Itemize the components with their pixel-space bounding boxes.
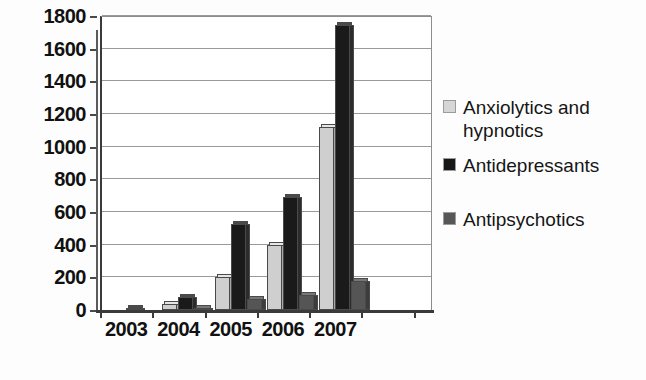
bar-2005-anxiolytics-and-hypnotics[interactable] bbox=[215, 277, 230, 310]
x-tick-mark-0 bbox=[100, 310, 102, 318]
bar-face bbox=[283, 197, 298, 310]
y-tick-label-1600: 1600 bbox=[44, 37, 87, 60]
x-tick-mark-3 bbox=[257, 310, 259, 318]
bar-face bbox=[231, 224, 246, 310]
legend-entry-antipsychotics[interactable]: Antipsychotics bbox=[443, 208, 584, 231]
plot-wrapper bbox=[100, 16, 432, 310]
y-axis-line bbox=[96, 30, 98, 312]
bar-face bbox=[178, 297, 193, 310]
x-tick-label-2005: 2005 bbox=[209, 318, 252, 341]
x-tick-mark-5 bbox=[361, 310, 363, 318]
x-tick-mark-1 bbox=[152, 310, 154, 318]
y-tick-label-1400: 1400 bbox=[44, 70, 87, 93]
x-tick-mark-2 bbox=[205, 310, 207, 318]
bar-2006-antipsychotics[interactable] bbox=[299, 295, 314, 310]
y-tick-label-800: 800 bbox=[54, 168, 86, 191]
bar-group-2007 bbox=[319, 17, 367, 310]
x-tick-label-2004: 2004 bbox=[157, 318, 200, 341]
legend-label: Anxiolytics and hypnotics bbox=[463, 96, 638, 142]
y-tick-label-1000: 1000 bbox=[44, 135, 87, 158]
x-tick-label-2007: 2007 bbox=[314, 318, 357, 341]
bar-side-face bbox=[350, 25, 354, 310]
bar-face bbox=[335, 25, 350, 310]
bar-face bbox=[319, 127, 334, 310]
bar-2007-anxiolytics-and-hypnotics[interactable] bbox=[319, 127, 334, 310]
bar-2005-antipsychotics[interactable] bbox=[247, 299, 262, 310]
x-tick-mark-6 bbox=[414, 310, 416, 318]
bar-group-2004 bbox=[162, 17, 210, 310]
legend-entry-anxiolytics-and-hypnotics[interactable]: Anxiolytics and hypnotics bbox=[443, 96, 638, 142]
gridline-1800 bbox=[102, 15, 431, 16]
y-tick-label-400: 400 bbox=[54, 233, 86, 256]
light-gray-swatch bbox=[443, 100, 456, 113]
bar-chart-figure: 020040060080010001200140016001800 200320… bbox=[0, 0, 646, 380]
bar-face bbox=[247, 299, 262, 310]
bar-2007-antidepressants[interactable] bbox=[335, 25, 350, 310]
bar-side-face bbox=[262, 299, 266, 310]
y-tick-label-0: 0 bbox=[75, 299, 86, 322]
dark-gray-swatch bbox=[443, 212, 456, 225]
bar-2005-antidepressants[interactable] bbox=[231, 224, 246, 310]
bar-2006-anxiolytics-and-hypnotics[interactable] bbox=[267, 245, 282, 310]
x-tick-label-2006: 2006 bbox=[262, 318, 305, 341]
bar-side-face bbox=[366, 281, 370, 310]
legend-entry-antidepressants[interactable]: Antidepressants bbox=[443, 154, 599, 177]
bar-face bbox=[299, 295, 314, 310]
y-tick-label-200: 200 bbox=[54, 266, 86, 289]
y-tick-label-600: 600 bbox=[54, 201, 86, 224]
x-tick-label-2003: 2003 bbox=[105, 318, 148, 341]
bar-side-face bbox=[314, 295, 318, 310]
y-tick-mark-1800 bbox=[90, 16, 97, 18]
x-axis-labels: 20032004200520062007 bbox=[92, 318, 442, 348]
bar-group-2005 bbox=[215, 17, 263, 310]
plot-area bbox=[100, 16, 432, 310]
legend-label: Antipsychotics bbox=[463, 208, 584, 231]
bar-groups bbox=[102, 17, 431, 310]
black-swatch bbox=[443, 158, 456, 171]
y-tick-label-1200: 1200 bbox=[44, 103, 87, 126]
bar-2004-antidepressants[interactable] bbox=[178, 297, 193, 310]
bar-face bbox=[351, 281, 366, 310]
bar-face bbox=[267, 245, 282, 310]
bar-group-2003 bbox=[110, 17, 158, 310]
bar-2006-antidepressants[interactable] bbox=[283, 197, 298, 310]
bar-group-2006 bbox=[267, 17, 315, 310]
bar-face bbox=[215, 277, 230, 310]
bar-2007-antipsychotics[interactable] bbox=[351, 281, 366, 310]
y-tick-label-1800: 1800 bbox=[44, 5, 87, 28]
x-tick-mark-4 bbox=[309, 310, 311, 318]
y-axis-labels: 020040060080010001200140016001800 bbox=[0, 0, 96, 330]
legend-label: Antidepressants bbox=[463, 154, 599, 177]
